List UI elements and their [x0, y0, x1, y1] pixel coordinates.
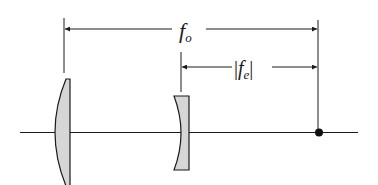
objective-focal-length-label: fo	[176, 20, 195, 42]
eyepiece-focal-length-label: |fe|	[232, 58, 255, 78]
galilean-telescope-diagram: fo |fe|	[0, 0, 378, 185]
fe-subscript: e	[244, 67, 250, 82]
fe-abs-right: |	[249, 57, 253, 79]
focal-point	[315, 129, 323, 137]
fo-subscript: o	[185, 30, 192, 45]
objective-lens	[55, 79, 70, 185]
fe-main: f	[238, 57, 244, 79]
